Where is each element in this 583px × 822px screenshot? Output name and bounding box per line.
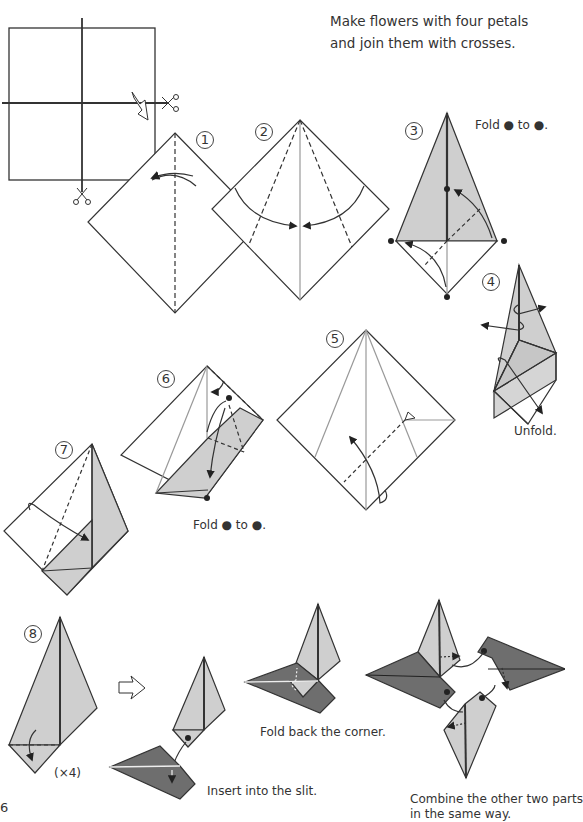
insert-caption: Insert into the slit. [207,784,317,798]
step-6-caption: Fold ● to ●. [193,518,266,532]
assembly-fold-back-diagram [245,604,340,713]
fold-point-dot [204,495,210,501]
page-title: Make flowers with four petals and join t… [330,10,560,54]
fold-point-dot [444,186,450,192]
title-line-2: and join them with crosses. [330,32,560,54]
step-5-diagram [277,330,455,510]
step-7-diagram [4,444,128,595]
step-3-diagram [388,113,507,300]
step-6-diagram [121,366,263,501]
hollow-arrow-right-icon [119,676,145,699]
step-number-2: 2 [255,123,273,141]
page-number: 6 [0,800,8,815]
assembly-insert-diagram [110,657,225,799]
step-number-6: 6 [157,370,175,388]
step-8-diagram [9,617,97,773]
step-3-caption: Fold ● to ●. [475,118,548,132]
fold-back-caption: Fold back the corner. [260,725,386,739]
fold-point-dot [444,294,450,300]
step-number-4: 4 [482,273,500,291]
step-number-8: 8 [24,625,42,643]
combine-caption-line-1: Combine the other two parts [410,792,583,807]
combine-caption-line-2: in the same way. [410,807,583,822]
step-number-5: 5 [326,330,344,348]
step-number-7: 7 [55,441,73,459]
step-4-caption: Unfold. [514,424,557,438]
step-number-1: 1 [196,131,214,149]
fold-point-dot [501,238,507,244]
title-line-1: Make flowers with four petals [330,10,560,32]
step-2-diagram [212,120,389,300]
step-number-3: 3 [405,122,423,140]
assembly-combine-diagram [366,600,565,778]
fold-point-dot [388,238,394,244]
fold-point-dot [226,395,232,401]
step-8-repeat-caption: (×4) [54,766,81,780]
combine-caption: Combine the other two parts in the same … [410,792,583,822]
